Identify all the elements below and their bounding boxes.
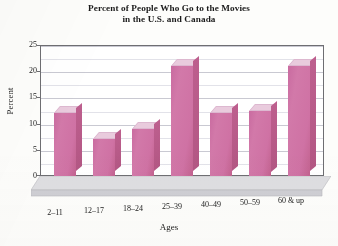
x-tick-label-25-39: 25–39 bbox=[155, 202, 189, 211]
x-tick-label-40-49: 40–49 bbox=[194, 200, 228, 209]
x-tick-label-12-17: 12–17 bbox=[77, 206, 111, 215]
x-tick-label-50-59: 50–59 bbox=[233, 198, 267, 207]
x-axis-ticks: 2–11 12–17 18–24 25–39 40–49 50–59 60 & … bbox=[0, 0, 338, 246]
chart-figure: Percent of People Who Go to the Movies i… bbox=[0, 0, 338, 246]
x-axis-label: Ages bbox=[0, 222, 338, 232]
x-tick-label-60-and-up: 60 & up bbox=[269, 196, 313, 205]
x-tick-label-2-11: 2–11 bbox=[38, 208, 72, 217]
x-tick-label-18-24: 18–24 bbox=[116, 204, 150, 213]
